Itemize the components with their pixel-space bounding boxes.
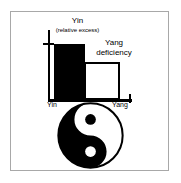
label-yin-excess-subtitle: (relative excess) [0,27,155,33]
y-axis-line [48,30,50,101]
bar-yang [84,62,120,100]
bar-yin [54,44,85,100]
label-yin-excess-title: Yin [0,17,155,25]
label-yang-deficiency-line1: Yang [92,39,136,47]
taijitu-icon [57,102,124,169]
figure-root: Yin (relative excess) Yang deficiency Yi… [0,0,181,183]
x-axis-label-yin: Yin [47,101,57,108]
label-yang-deficiency-line2: deficiency [89,49,139,57]
x-axis-end-tick [129,94,131,103]
y-axis-reference-tick [43,43,54,45]
